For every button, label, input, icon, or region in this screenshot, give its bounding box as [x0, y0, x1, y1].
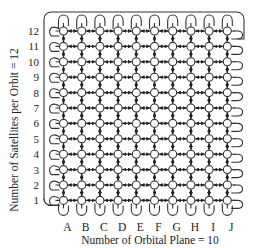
satellite-node [132, 42, 140, 50]
satellite-node [60, 58, 68, 66]
satellite-node [96, 27, 104, 35]
satellite-node [132, 181, 140, 189]
satellite-node [114, 135, 122, 143]
satellite-node [132, 73, 140, 81]
satellite-node [114, 58, 122, 66]
satellite-node [223, 89, 231, 97]
satellite-node [114, 196, 122, 204]
satellite-node [187, 58, 195, 66]
column-label: G [173, 221, 181, 233]
satellite-node [169, 119, 177, 127]
satellite-node [60, 119, 68, 127]
x-axis-title: Number of Orbital Plane = 10 [81, 234, 219, 246]
satellite-node [78, 150, 86, 158]
satellite-node [151, 135, 159, 143]
satellite-node [78, 73, 86, 81]
satellite-node [187, 196, 195, 204]
row-label: 3 [34, 164, 40, 176]
satellite-node [223, 42, 231, 50]
satellite-node [78, 89, 86, 97]
satellite-node [96, 58, 104, 66]
satellite-node [60, 166, 68, 174]
satellite-node [114, 89, 122, 97]
satellite-node [205, 166, 213, 174]
satellite-node [223, 196, 231, 204]
satellite-node [187, 181, 195, 189]
satellite-node [205, 104, 213, 112]
column-label: H [191, 221, 199, 233]
satellite-node [169, 135, 177, 143]
satellite-node [78, 58, 86, 66]
satellite-node [151, 196, 159, 204]
satellite-node [78, 104, 86, 112]
satellite-node [96, 135, 104, 143]
satellite-node [169, 42, 177, 50]
satellite-node [78, 119, 86, 127]
satellite-node [151, 119, 159, 127]
satellite-node [151, 58, 159, 66]
row-label: 4 [34, 148, 40, 160]
satellite-node [151, 42, 159, 50]
column-label: D [118, 221, 126, 233]
satellite-node [205, 58, 213, 66]
row-label: 11 [28, 40, 39, 52]
satellite-node [114, 150, 122, 158]
satellite-node [114, 181, 122, 189]
satellite-node [205, 27, 213, 35]
satellite-node [114, 166, 122, 174]
satellite-node [187, 73, 195, 81]
satellite-node [223, 27, 231, 35]
satellite-node [205, 89, 213, 97]
satellite-node [96, 89, 104, 97]
satellite-node [223, 104, 231, 112]
satellite-node [132, 119, 140, 127]
satellite-node [78, 27, 86, 35]
satellite-node [96, 42, 104, 50]
column-label: F [155, 221, 161, 233]
satellite-node [187, 27, 195, 35]
satellite-node [223, 119, 231, 127]
satellite-node [205, 73, 213, 81]
column-label: I [211, 221, 215, 233]
satellite-node [187, 166, 195, 174]
row-label: 2 [34, 179, 40, 191]
satellite-node [151, 104, 159, 112]
satellite-node [169, 89, 177, 97]
satellite-node [187, 89, 195, 97]
satellite-node [223, 150, 231, 158]
satellite-node [151, 73, 159, 81]
satellite-node [205, 181, 213, 189]
satellite-node [60, 135, 68, 143]
satellite-node [187, 42, 195, 50]
satellite-node [205, 150, 213, 158]
column-label: B [82, 221, 90, 233]
satellite-node [60, 27, 68, 35]
satellite-node [132, 89, 140, 97]
satellite-node [151, 89, 159, 97]
satellite-node [114, 42, 122, 50]
y-axis-title: Number of Satellites per Orbit = 12 [8, 48, 21, 212]
satellite-node [151, 181, 159, 189]
satellite-node [114, 73, 122, 81]
satellite-node [187, 119, 195, 127]
satellite-node [132, 166, 140, 174]
satellite-node [223, 58, 231, 66]
satellite-node [96, 181, 104, 189]
satellite-node [78, 42, 86, 50]
satellite-node [223, 166, 231, 174]
satellite-node [78, 196, 86, 204]
satellite-node [205, 196, 213, 204]
satellite-node [60, 73, 68, 81]
row-labels: 123456789101112 [28, 25, 40, 206]
column-label: A [63, 221, 72, 233]
row-label: 1 [34, 194, 40, 206]
satellite-node [169, 58, 177, 66]
satellite-node [187, 150, 195, 158]
satellite-node [78, 135, 86, 143]
satellite-node [78, 181, 86, 189]
satellite-node [169, 104, 177, 112]
satellite-node [78, 166, 86, 174]
row-label: 12 [28, 25, 39, 37]
satellite-node [187, 104, 195, 112]
satellite-node [60, 104, 68, 112]
